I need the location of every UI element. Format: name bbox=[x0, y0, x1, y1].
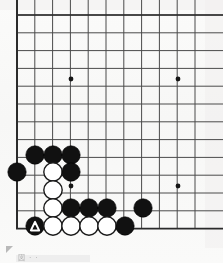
stone-disc bbox=[26, 146, 44, 164]
black-stone[interactable] bbox=[62, 199, 80, 217]
stone-disc bbox=[44, 146, 62, 164]
stone-disc bbox=[44, 163, 62, 181]
star-point bbox=[176, 184, 181, 189]
white-stone[interactable] bbox=[44, 163, 62, 181]
star-point bbox=[176, 77, 181, 82]
white-stone[interactable] bbox=[98, 217, 116, 235]
stone-disc bbox=[98, 217, 116, 235]
white-stone[interactable] bbox=[80, 217, 98, 235]
stone-disc bbox=[8, 163, 26, 181]
black-stone[interactable] bbox=[26, 217, 44, 235]
stone-disc bbox=[62, 217, 80, 235]
black-stone[interactable] bbox=[44, 146, 62, 164]
star-point bbox=[69, 77, 74, 82]
stone-disc bbox=[26, 217, 44, 235]
black-stone[interactable] bbox=[134, 199, 152, 217]
stone-disc bbox=[62, 199, 80, 217]
white-stone[interactable] bbox=[44, 199, 62, 217]
white-stone[interactable] bbox=[62, 217, 80, 235]
stone-disc bbox=[44, 217, 62, 235]
board-stones[interactable] bbox=[8, 146, 152, 235]
black-stone[interactable] bbox=[80, 199, 98, 217]
caption-arrow-icon bbox=[6, 246, 13, 253]
stone-disc bbox=[116, 217, 134, 235]
black-stone[interactable] bbox=[116, 217, 134, 235]
star-point bbox=[69, 184, 74, 189]
black-stone[interactable] bbox=[26, 146, 44, 164]
go-board-canvas[interactable] bbox=[0, 0, 223, 248]
caption-block: 図 · · bbox=[6, 246, 106, 262]
stone-disc bbox=[62, 146, 80, 164]
white-stone[interactable] bbox=[44, 181, 62, 199]
page-root: 図 · · bbox=[0, 0, 223, 263]
go-board[interactable] bbox=[0, 0, 223, 248]
stone-disc bbox=[62, 163, 80, 181]
stone-disc bbox=[80, 199, 98, 217]
black-stone[interactable] bbox=[62, 163, 80, 181]
white-stone[interactable] bbox=[44, 217, 62, 235]
stone-disc bbox=[80, 217, 98, 235]
stone-disc bbox=[134, 199, 152, 217]
black-stone[interactable] bbox=[8, 163, 26, 181]
caption-text: 図 · · bbox=[18, 252, 39, 262]
black-stone[interactable] bbox=[62, 146, 80, 164]
black-stone[interactable] bbox=[98, 199, 116, 217]
stone-disc bbox=[44, 199, 62, 217]
board-star-points bbox=[69, 77, 181, 189]
stone-disc bbox=[98, 199, 116, 217]
stone-disc bbox=[44, 181, 62, 199]
